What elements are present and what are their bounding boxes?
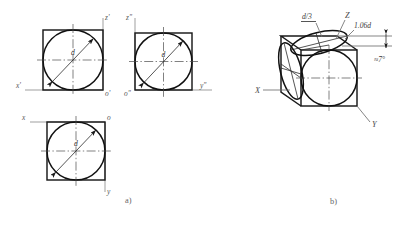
technical-drawing-figure: d x' z' o' d z" o" y" [0, 0, 404, 229]
dimension-label-d-profile: d [162, 50, 166, 59]
axis-label-o-prime: o' [105, 89, 111, 98]
axis-label-y: y [106, 187, 111, 196]
caption-a: a) [125, 196, 132, 205]
annotation-angle-text: ≈7° [374, 55, 385, 64]
axis-label-o-doubleprime: o" [124, 89, 132, 98]
dimension-label-d-frontal: d [71, 48, 75, 57]
axis-label-z-prime: z' [104, 13, 110, 22]
axis-label-z-doubleprime: z" [125, 13, 133, 22]
dimension-label-d-horizontal: d [74, 139, 78, 148]
axis-label-o: o [107, 113, 111, 122]
canvas-background [0, 0, 404, 229]
axis-label-X: X [254, 86, 261, 95]
annotation-1-06d-text: 1.06d [354, 21, 371, 30]
axis-label-y-doubleprime: y" [199, 81, 207, 90]
annotation-d-over-3-text: d/3 [302, 12, 312, 21]
axis-label-x-prime: x' [15, 81, 21, 90]
axis-label-x: x [21, 113, 26, 122]
caption-b: b) [330, 197, 337, 206]
axis-label-Z: Z [345, 11, 350, 20]
drawing-canvas: d x' z' o' d z" o" y" [0, 0, 404, 229]
